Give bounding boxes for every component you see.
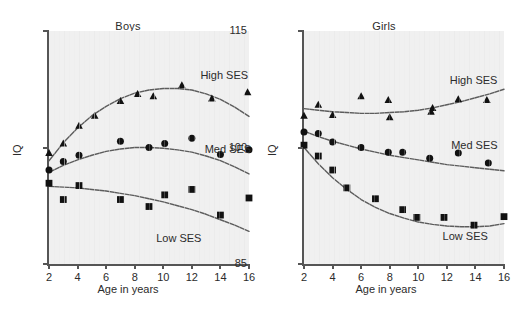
y-tick-mark <box>298 147 303 149</box>
plot-texture-line <box>404 31 405 264</box>
x-tick-mark <box>248 264 250 269</box>
y-tick-mark <box>43 30 48 32</box>
plot-texture-line <box>74 31 75 264</box>
x-tick-mark <box>503 264 505 269</box>
data-point-circle <box>46 167 53 174</box>
plot-texture-line <box>369 31 370 264</box>
plot-texture-line <box>354 31 355 264</box>
plot-texture-line <box>329 31 330 264</box>
series-label-high-ses: High SES <box>200 69 248 81</box>
x-axis-title-girls: Age in years <box>258 283 513 295</box>
plot-texture-line <box>64 31 65 264</box>
x-tick-label: 12 <box>441 271 453 283</box>
plot-texture-line <box>169 31 170 264</box>
y-tick-mark <box>43 147 48 149</box>
x-tick-label: 2 <box>46 271 52 283</box>
figure-root: Boys IQ 85100115246810121416High SESMed … <box>0 0 513 312</box>
y-tick-label: 115 <box>229 24 247 36</box>
series-label-low-ses: Low SES <box>443 230 488 242</box>
plot-texture-line <box>364 31 365 264</box>
x-tick-mark <box>219 264 221 269</box>
x-tick-label: 16 <box>243 271 255 283</box>
plot-texture-line <box>109 31 110 264</box>
series-label-med-ses: Med SES <box>451 139 497 151</box>
plot-area-boys: 85100115246810121416High SESMed SESLow S… <box>49 31 249 264</box>
x-tick-mark <box>417 264 419 269</box>
x-tick-mark <box>48 264 50 269</box>
plot-texture-line <box>409 31 410 264</box>
plot-texture-line <box>339 31 340 264</box>
x-tick-mark <box>191 264 193 269</box>
data-point-square <box>501 213 508 220</box>
plot-texture-line <box>159 31 160 264</box>
y-axis-title-boys: IQ <box>11 144 23 156</box>
x-tick-label: 12 <box>186 271 198 283</box>
x-tick-mark <box>474 264 476 269</box>
x-tick-mark <box>303 264 305 269</box>
y-tick-mark <box>298 30 303 32</box>
plot-texture-line <box>429 31 430 264</box>
plot-texture-line <box>174 31 175 264</box>
plot-texture-line <box>119 31 120 264</box>
x-tick-label: 14 <box>214 271 226 283</box>
plot-texture-line <box>149 31 150 264</box>
x-tick-mark <box>332 264 334 269</box>
series-label-low-ses: Low SES <box>156 232 201 244</box>
plot-texture-line <box>399 31 400 264</box>
plot-texture-line <box>129 31 130 264</box>
x-tick-label: 10 <box>412 271 424 283</box>
y-axis-title-girls: IQ <box>266 144 278 156</box>
plot-texture-line <box>434 31 435 264</box>
x-axis-title-boys: Age in years <box>0 283 256 295</box>
plot-texture-line <box>349 31 350 264</box>
plot-texture-line <box>89 31 90 264</box>
plot-texture-line <box>114 31 115 264</box>
x-tick-label: 10 <box>157 271 169 283</box>
data-point-circle <box>329 139 336 146</box>
y-tick-label: 100 <box>229 141 247 153</box>
plot-texture-line <box>414 31 415 264</box>
data-point-circle <box>117 138 124 145</box>
plot-texture-line <box>54 31 55 264</box>
plot-texture-line <box>384 31 385 264</box>
x-tick-label: 8 <box>387 271 393 283</box>
plot-texture-line <box>99 31 100 264</box>
plot-texture-line <box>439 31 440 264</box>
x-tick-label: 14 <box>469 271 481 283</box>
x-tick-label: 6 <box>358 271 364 283</box>
data-point-square <box>46 180 53 187</box>
plot-texture-line <box>314 31 315 264</box>
x-tick-mark <box>446 264 448 269</box>
panel-girls: Girls IQ 85100115246810121416High SESMed… <box>256 0 512 312</box>
data-point-circle <box>399 149 406 156</box>
x-tick-mark <box>360 264 362 269</box>
plot-texture-line <box>189 31 190 264</box>
plot-texture-line <box>499 31 500 264</box>
data-point-square <box>246 195 253 202</box>
plot-texture-line <box>359 31 360 264</box>
plot-texture-line <box>424 31 425 264</box>
panel-boys: Boys IQ 85100115246810121416High SESMed … <box>0 0 256 312</box>
plot-texture-line <box>194 31 195 264</box>
plot-texture-line <box>179 31 180 264</box>
plot-texture-line <box>334 31 335 264</box>
series-label-high-ses: High SES <box>450 74 498 86</box>
x-tick-label: 2 <box>301 271 307 283</box>
plot-texture-line <box>79 31 80 264</box>
x-tick-mark <box>105 264 107 269</box>
plot-texture-line <box>124 31 125 264</box>
plot-texture-line <box>344 31 345 264</box>
plot-texture-line <box>419 31 420 264</box>
plot-texture-line <box>84 31 85 264</box>
x-tick-label: 4 <box>75 271 81 283</box>
plot-texture-line <box>184 31 185 264</box>
plot-texture-line <box>199 31 200 264</box>
x-tick-mark <box>389 264 391 269</box>
plot-texture-line <box>394 31 395 264</box>
plot-texture-line <box>134 31 135 264</box>
x-tick-mark <box>134 264 136 269</box>
x-tick-label: 6 <box>103 271 109 283</box>
plot-texture-line <box>59 31 60 264</box>
data-point-circle <box>301 128 308 135</box>
y-tick-label: 85 <box>235 257 247 269</box>
